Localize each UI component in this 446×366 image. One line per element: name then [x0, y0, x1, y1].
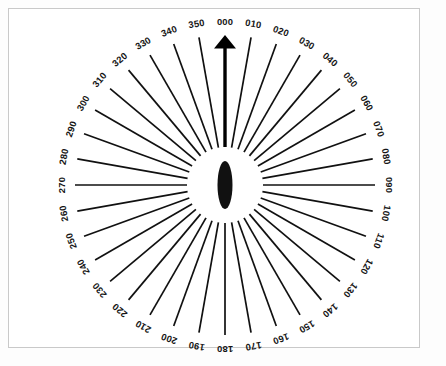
bearing-label-290: 290	[63, 119, 79, 138]
ray-line	[174, 44, 212, 149]
ray-line	[258, 204, 355, 260]
bearing-label-270: 270	[56, 177, 67, 193]
bearing-label-020: 020	[272, 23, 291, 39]
bearing-label-340: 340	[159, 23, 178, 39]
figure-caption	[10, 356, 310, 366]
bearing-label-040: 040	[321, 50, 341, 69]
bearing-label-280: 280	[57, 148, 71, 166]
ray-line	[244, 55, 300, 152]
bearing-label-260: 260	[57, 205, 71, 223]
north-arrow	[214, 35, 236, 147]
ray-line	[77, 192, 187, 211]
bearing-label-120: 120	[358, 257, 376, 277]
compass-rose-svg: 0000100200300400500600700800901001101201…	[0, 0, 446, 366]
north-arrow-head	[214, 35, 236, 48]
ray-line	[174, 221, 212, 326]
ray-line	[261, 198, 366, 236]
bearing-label-100: 100	[380, 205, 394, 223]
bearing-label-160: 160	[272, 331, 291, 347]
center-blob	[218, 161, 233, 209]
bearing-label-150: 150	[297, 318, 317, 336]
bearing-label-060: 060	[358, 93, 376, 113]
ray-line	[262, 159, 372, 178]
center-lens-marker	[218, 161, 233, 209]
ray-line	[238, 221, 276, 326]
ray-line	[95, 204, 192, 260]
bearing-label-000: 000	[217, 16, 233, 27]
bearing-label-140: 140	[321, 301, 341, 320]
bearing-label-110: 110	[371, 232, 387, 251]
bearing-label-170: 170	[245, 340, 263, 354]
bearing-label-240: 240	[74, 257, 92, 277]
ray-line	[232, 222, 251, 332]
ray-line	[199, 37, 218, 147]
bearing-label-180: 180	[217, 344, 233, 355]
bearing-label-080: 080	[380, 148, 394, 166]
bearing-label-330: 330	[133, 34, 153, 52]
ray-line	[95, 110, 192, 166]
bearing-label-300: 300	[74, 93, 92, 113]
ray-line	[84, 134, 189, 172]
bearing-label-350: 350	[188, 17, 206, 31]
bearing-label-230: 230	[90, 281, 109, 301]
bearing-label-320: 320	[110, 50, 130, 69]
ray-line	[150, 218, 206, 315]
ray-line	[261, 134, 366, 172]
bearing-label-210: 210	[133, 318, 153, 336]
ray-line	[150, 55, 206, 152]
bearing-label-010: 010	[245, 17, 263, 31]
compass-rose-diagram: 0000100200300400500600700800901001101201…	[0, 0, 446, 366]
ray-line	[258, 110, 355, 166]
bearing-label-200: 200	[159, 331, 178, 347]
ray-line	[262, 192, 372, 211]
ray-line	[199, 222, 218, 332]
bearing-label-050: 050	[341, 70, 360, 90]
ray-line	[232, 37, 251, 147]
bearing-label-250: 250	[63, 232, 79, 251]
bearing-label-130: 130	[341, 281, 360, 301]
ray-line	[238, 44, 276, 149]
ray-line	[77, 159, 187, 178]
bearing-label-030: 030	[297, 34, 317, 52]
bearing-label-220: 220	[110, 301, 130, 320]
bearing-label-070: 070	[371, 119, 387, 138]
bearing-label-090: 090	[384, 177, 395, 193]
bearing-label-310: 310	[90, 70, 109, 90]
ray-line	[244, 218, 300, 315]
bearing-label-190: 190	[188, 340, 206, 354]
ray-line	[84, 198, 189, 236]
